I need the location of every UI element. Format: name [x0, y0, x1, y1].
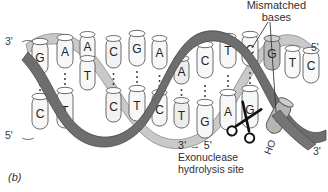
base-top: C	[106, 36, 121, 69]
base-top: G	[129, 30, 145, 66]
hydrogen-bond	[181, 89, 183, 96]
svg-text:G: G	[200, 115, 209, 129]
base-bottom: C	[32, 93, 48, 129]
base-pair: A T	[80, 32, 95, 91]
hydrogen-bond	[204, 85, 206, 97]
dna-helix-figure: G C A	[0, 0, 328, 192]
svg-text:C: C	[109, 100, 118, 114]
svg-text:A: A	[83, 40, 91, 54]
hydrogen-bond	[136, 71, 138, 83]
svg-text:T: T	[133, 99, 141, 113]
base-pair: G T	[129, 30, 145, 121]
mismatched-base-t: T	[285, 46, 300, 79]
base-bottom: C	[106, 88, 121, 123]
svg-text:T: T	[289, 56, 297, 70]
exonuclease-site-annotation: Exonuclease hydrolysis site	[178, 152, 244, 176]
base-bottom: T	[80, 56, 95, 91]
svg-text:A: A	[224, 105, 232, 119]
hydrolysis-direction-label: 3' → 5'	[178, 140, 212, 152]
base-top: C	[197, 41, 213, 78]
mismatched-bases-line1: Mismatched	[247, 0, 306, 11]
hydrogen-bond	[227, 75, 229, 87]
exonuclease-line1: Exonuclease	[178, 151, 238, 163]
mismatched-bases-annotation: Mismatched bases	[247, 0, 306, 24]
exonuclease-line2: hydrolysis site	[178, 163, 244, 175]
base-top: A	[57, 34, 73, 68]
base-top: A	[152, 36, 167, 70]
end-label-5prime-right: 5'	[311, 42, 319, 54]
base-pair: C G	[197, 41, 213, 138]
dna-helix-illustration: G C A	[0, 0, 328, 192]
svg-text:A: A	[155, 46, 163, 60]
end-label-3prime-right: 3'	[313, 146, 321, 158]
svg-text:T: T	[178, 109, 186, 123]
base-bottom: T	[174, 98, 189, 129]
svg-text:A: A	[177, 65, 185, 79]
svg-text:G: G	[132, 42, 141, 56]
svg-text:T: T	[84, 69, 92, 83]
svg-text:C: C	[36, 107, 45, 121]
svg-text:A: A	[61, 45, 69, 59]
base-bottom: G	[197, 99, 213, 138]
svg-text:C: C	[109, 45, 118, 59]
end-label-3prime-left: 3'	[5, 36, 13, 48]
mismatched-bases-line2: bases	[247, 11, 306, 23]
base-bottom: A	[220, 89, 236, 130]
svg-text:C: C	[307, 59, 316, 73]
panel-letter: (b)	[8, 171, 21, 183]
svg-text:C: C	[201, 54, 210, 68]
end-label-5prime-left: 5'	[5, 130, 13, 142]
hydrogen-bond	[64, 73, 66, 85]
